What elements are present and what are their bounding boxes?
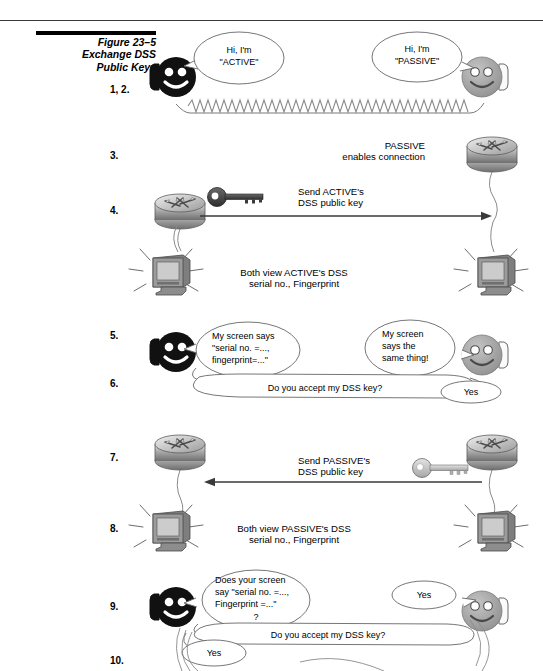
router-icon-passive-7 <box>467 435 517 470</box>
svg-text:Yes: Yes <box>417 590 432 600</box>
svg-text:say "serial no. =...,: say "serial no. =..., <box>215 587 289 597</box>
svg-text:My screen says: My screen says <box>212 331 275 341</box>
svg-text:Yes: Yes <box>464 387 479 397</box>
monitor-icon-left-a <box>153 255 190 295</box>
svg-text:"ACTIVE": "ACTIVE" <box>220 57 259 67</box>
svg-text:same thing!: same thing! <box>382 353 429 363</box>
bubble-active-hello: Hi, I'm "ACTIVE" <box>184 32 284 84</box>
router-icon-active-7 <box>155 435 205 470</box>
svg-text:Do you accept my DSS key?: Do you accept my DSS key? <box>271 630 386 640</box>
svg-text:Fingerprint =...": Fingerprint =..." <box>215 599 276 609</box>
arrow-right-icon-4 <box>200 212 492 220</box>
svg-text:My screen: My screen <box>382 329 424 339</box>
svg-text:?: ? <box>253 612 258 622</box>
bubble-active-verify: Does your screen say "serial no. =..., F… <box>184 570 310 630</box>
monitor-icon-right-a <box>478 255 515 295</box>
bubble-passive-same: My screen says the same thing! <box>365 320 474 376</box>
arrow-left-icon-7 <box>204 478 482 486</box>
figure-artwork: Hi, I'm "ACTIVE" Hi, I'm "PASSIVE" <box>0 0 543 671</box>
phone-cord-icon <box>176 100 484 113</box>
svg-text:Do you accept my DSS key?: Do you accept my DSS key? <box>268 383 383 393</box>
smiley-face-gray-icon <box>462 57 508 97</box>
svg-text:"serial no. =...,: "serial no. =..., <box>212 343 269 353</box>
svg-text:Yes: Yes <box>207 648 222 658</box>
router-icon-active-4 <box>155 194 205 229</box>
bubble-passive-hello: Hi, I'm "PASSIVE" <box>372 32 474 82</box>
svg-text:"PASSIVE": "PASSIVE" <box>395 56 439 66</box>
figure-page: Figure 23–5 Exchange DSS Public Keys 1, … <box>0 0 543 671</box>
key-dark-icon-4 <box>208 188 264 207</box>
svg-text:Does your screen: Does your screen <box>215 575 286 585</box>
smiley-face-gray-icon-9 <box>462 591 508 631</box>
bubble-accept-question-10: Do you accept my DSS key? <box>194 623 474 645</box>
router-icon-passive-3 <box>467 137 517 172</box>
svg-text:fingerprint=...": fingerprint=..." <box>212 355 268 365</box>
monitor-icon-right-b <box>478 511 515 551</box>
bubble-active-screen: My screen says "serial no. =..., fingerp… <box>184 322 300 378</box>
monitor-icon-left-b <box>153 511 190 551</box>
key-light-icon-7 <box>413 459 469 478</box>
svg-text:Hi, I'm: Hi, I'm <box>404 44 429 54</box>
svg-text:says the: says the <box>382 341 416 351</box>
smiley-face-black-icon-9 <box>150 587 196 627</box>
svg-text:Hi, I'm: Hi, I'm <box>226 45 251 55</box>
smiley-face-black-icon-5 <box>150 332 196 372</box>
